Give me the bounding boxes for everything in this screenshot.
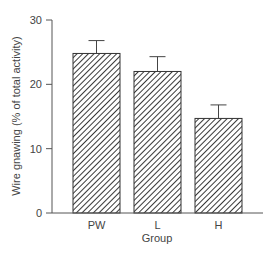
- x-tick-label: PW: [88, 219, 106, 231]
- y-tick-label: 10: [30, 143, 42, 155]
- bar-chart: 0102030 PWLH Group Wire gnawing (% of to…: [0, 0, 277, 256]
- y-axis-ticks: 0102030: [30, 14, 52, 219]
- bar-l: [134, 71, 181, 213]
- bar-pw: [73, 53, 120, 213]
- y-tick-label: 0: [36, 207, 42, 219]
- y-tick-label: 30: [30, 14, 42, 26]
- bar-h: [195, 118, 242, 213]
- x-axis-title: Group: [142, 232, 173, 244]
- plot-area: [73, 41, 242, 213]
- y-tick-label: 20: [30, 78, 42, 90]
- x-tick-label: H: [215, 219, 223, 231]
- chart-svg: 0102030 PWLH Group Wire gnawing (% of to…: [0, 0, 277, 256]
- x-tick-label: L: [154, 219, 160, 231]
- y-axis-title: Wire gnawing (% of total activity): [10, 36, 22, 196]
- x-axis-tick-labels: PWLH: [88, 219, 223, 231]
